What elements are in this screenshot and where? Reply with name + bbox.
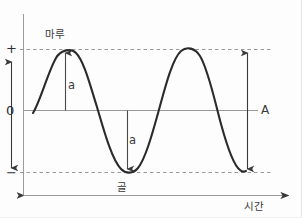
wave-amplitude-diagram: 마루 골 시간 + 0 − a a A [0, 0, 302, 218]
amplitude-up-label: a [68, 80, 75, 92]
positive-axis-label: + [6, 42, 17, 55]
trough-label: 골 [117, 182, 127, 193]
zero-axis-label: 0 [6, 104, 14, 117]
total-amplitude-label: A [261, 104, 269, 116]
amplitude-down-label: a [129, 135, 136, 147]
crest-label: 마루 [45, 29, 65, 40]
time-axis-label: 시간 [244, 201, 264, 212]
negative-axis-label: − [6, 166, 17, 179]
